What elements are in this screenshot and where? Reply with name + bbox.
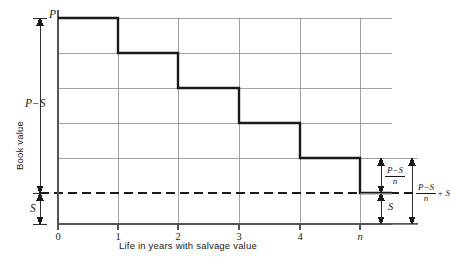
x-tick-label-2: 2 [168,232,188,243]
total-fraction-numerator: P−S [417,183,435,193]
right-outer-dimension-arrow [409,158,415,224]
total-fraction-tail: + S [435,189,450,198]
arrowhead-total-bottom [409,217,415,224]
arrowhead-p-minus-s-top [37,18,43,25]
arrowhead-s-top [37,193,43,200]
step-fraction-numerator: P−S [386,166,404,176]
total-fraction-denominator: n [416,193,436,204]
left-dimension-arrows [33,18,47,224]
step-fraction-denominator: n [385,176,405,187]
label-s-left: S [30,203,36,215]
arrowhead-right-salvage-bottom [378,217,384,224]
label-step-height-fraction: P−S n [386,166,404,186]
x-axis-ticks [58,224,360,230]
x-tick-label-3: 3 [229,232,249,243]
label-p-minus-s: P−S [25,98,46,110]
label-p: P [49,9,56,21]
arrowhead-s-bottom [37,217,43,224]
x-tick-label-0: 0 [48,232,68,243]
label-s-right: S [388,202,393,213]
y-axis-title: Book value [14,121,25,170]
arrowhead-total-top [409,158,415,165]
book-value-step-curve [58,18,392,193]
x-tick-label-4: 4 [290,232,310,243]
x-tick-label-1: 1 [108,232,128,243]
x-tick-label-n: n [350,232,370,243]
arrowhead-step-height-top [378,158,384,165]
label-total-fraction: P−S n + S [417,183,450,203]
